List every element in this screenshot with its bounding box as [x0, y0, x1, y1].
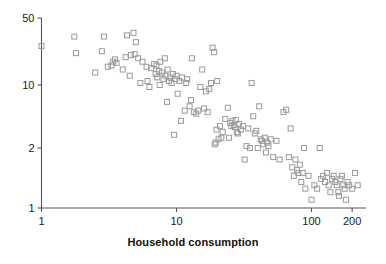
- data-point-marker: [187, 104, 192, 109]
- data-point-marker: [293, 157, 298, 162]
- data-point-marker: [257, 104, 262, 109]
- tick-labels-group: 121050110100200: [22, 12, 361, 227]
- data-point-marker: [218, 124, 223, 129]
- data-point-marker: [188, 98, 193, 103]
- data-point-marker: [306, 173, 311, 178]
- data-point-marker: [223, 116, 228, 121]
- data-point-marker: [165, 67, 170, 72]
- data-point-marker: [105, 64, 110, 69]
- data-point-marker: [246, 126, 251, 131]
- data-point-marker: [72, 34, 77, 39]
- x-axis-title: Household consumption: [0, 236, 386, 248]
- data-point-marker: [147, 85, 152, 90]
- data-point-marker: [328, 190, 333, 195]
- data-point-marker: [164, 99, 169, 104]
- data-point-marker: [133, 40, 138, 45]
- data-point-marker: [303, 186, 308, 191]
- data-point-marker: [302, 146, 307, 151]
- data-point-marker: [189, 56, 194, 61]
- data-point-marker: [120, 67, 125, 72]
- data-point-marker: [182, 108, 187, 113]
- data-point-marker: [350, 186, 355, 191]
- data-point-marker: [220, 130, 225, 135]
- data-point-marker: [153, 72, 158, 77]
- data-point-marker: [225, 105, 230, 110]
- data-point-marker: [277, 157, 282, 162]
- data-point-marker: [138, 80, 143, 85]
- data-point-marker: [145, 79, 150, 84]
- data-point-marker: [208, 80, 213, 85]
- y-tick-label-10: 10: [22, 79, 34, 91]
- data-point-marker: [330, 176, 335, 181]
- data-point-marker: [355, 183, 360, 188]
- data-point-marker: [288, 126, 293, 131]
- x-tick-label-200: 200: [343, 215, 361, 227]
- data-point-marker: [93, 70, 98, 75]
- data-point-marker: [334, 183, 339, 188]
- data-point-marker: [255, 146, 260, 151]
- data-point-marker: [242, 157, 247, 162]
- data-point-marker: [331, 173, 336, 178]
- data-point-marker: [338, 176, 343, 181]
- data-point-marker: [198, 85, 203, 90]
- data-point-marker: [123, 55, 128, 60]
- data-point-marker: [155, 75, 160, 80]
- data-point-marker: [326, 183, 331, 188]
- x-tick-label-100: 100: [302, 215, 320, 227]
- data-point-marker: [179, 118, 184, 123]
- data-point-marker: [200, 67, 205, 72]
- y-tick-label-1: 1: [28, 202, 34, 214]
- data-point-marker: [297, 162, 302, 167]
- data-point-marker: [353, 170, 358, 175]
- data-point-marker: [339, 173, 344, 178]
- data-point-marker: [271, 155, 276, 160]
- data-point-marker: [309, 197, 314, 202]
- y-tick-label-2: 2: [28, 142, 34, 154]
- data-point-marker: [244, 144, 249, 149]
- data-point-marker: [202, 106, 207, 111]
- data-point-marker: [131, 30, 136, 35]
- x-tick-label-1: 1: [38, 215, 44, 227]
- data-point-marker: [127, 73, 132, 78]
- x-tick-label-10: 10: [170, 215, 182, 227]
- data-point-marker: [125, 33, 130, 38]
- data-point-marker: [317, 146, 322, 151]
- data-point-marker: [333, 180, 338, 185]
- y-tick-label-50: 50: [22, 12, 34, 24]
- data-point-marker: [249, 80, 254, 85]
- data-point-marker: [205, 110, 210, 115]
- axis-group: [42, 18, 367, 208]
- data-point-marker: [175, 91, 180, 96]
- data-point-marker: [299, 180, 304, 185]
- data-point-marker: [215, 79, 220, 84]
- data-point-marker: [214, 127, 219, 132]
- plot-canvas: 121050110100200: [0, 0, 386, 264]
- data-point-marker: [156, 68, 161, 73]
- data-point-marker: [99, 49, 104, 54]
- data-point-marker: [101, 34, 106, 39]
- data-point-marker: [251, 114, 256, 119]
- data-point-marker: [159, 70, 164, 75]
- data-point-marker: [73, 51, 78, 56]
- data-points-group: [39, 30, 360, 202]
- data-point-marker: [172, 132, 177, 137]
- data-point-marker: [109, 63, 114, 68]
- scatter-plot-figure: 121050110100200 Household consumption: [0, 0, 386, 264]
- data-point-marker: [343, 197, 348, 202]
- data-point-marker: [227, 135, 232, 140]
- data-point-marker: [263, 150, 268, 155]
- data-point-marker: [286, 155, 291, 160]
- data-point-marker: [268, 137, 273, 142]
- data-point-marker: [274, 138, 279, 143]
- data-point-marker: [157, 83, 162, 88]
- data-point-marker: [247, 146, 252, 151]
